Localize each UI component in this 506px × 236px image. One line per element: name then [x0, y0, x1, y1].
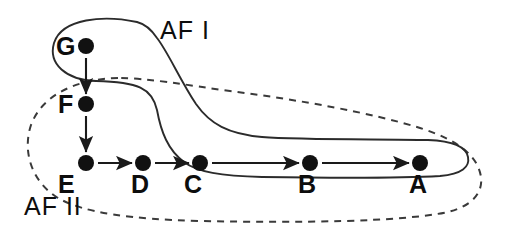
node-dot-c[interactable] — [192, 155, 208, 171]
region-label-af2: AF II — [24, 192, 82, 220]
node-label-g: G — [56, 32, 75, 60]
node-label-c: C — [184, 170, 202, 198]
node-label-a: A — [409, 170, 427, 198]
node-dot-e[interactable] — [78, 155, 94, 171]
node-label-f: F — [58, 90, 73, 118]
node-dot-d[interactable] — [135, 155, 151, 171]
edge-group — [86, 58, 409, 163]
node-dot-b[interactable] — [302, 155, 318, 171]
node-label-b: B — [298, 170, 316, 198]
node-group — [78, 38, 428, 171]
node-label-d: D — [131, 170, 149, 198]
node-dot-f[interactable] — [78, 96, 94, 112]
node-dot-g[interactable] — [78, 38, 94, 54]
region-outline-af1 — [53, 19, 468, 178]
node-dot-a[interactable] — [412, 155, 428, 171]
region-label-af1: AF I — [160, 16, 210, 44]
region-outline-af2 — [28, 78, 481, 222]
figure-container: G F E D C B A AF I AF II — [0, 0, 506, 236]
diagram-canvas: G F E D C B A AF I AF II — [0, 0, 506, 236]
